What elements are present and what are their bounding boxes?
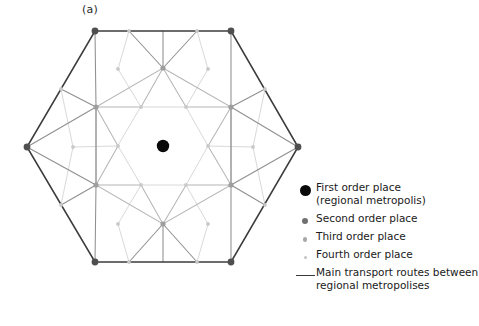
legend-item-third-order: Third order place	[294, 230, 479, 243]
legend-marker-cell	[294, 230, 316, 242]
legend-item-main-routes: Main transport routes between regional m…	[294, 266, 479, 292]
legend-item-second-order: Second order place	[294, 212, 479, 225]
legend: First order place (regional metropolis) …	[294, 181, 479, 295]
third-order-dot-icon	[303, 237, 308, 242]
legend-label-first-order: First order place (regional metropolis)	[316, 181, 426, 207]
first-order-dot-icon	[300, 185, 311, 196]
legend-label-second-order: Second order place	[316, 212, 418, 225]
legend-marker-cell	[294, 181, 316, 196]
figure-root: (a)	[0, 0, 479, 326]
second-order-dot-icon	[302, 218, 308, 224]
legend-label-fourth-order: Fourth order place	[316, 248, 413, 261]
legend-item-fourth-order: Fourth order place	[294, 248, 479, 261]
legend-marker-cell	[294, 212, 316, 224]
fourth-order-dot-icon	[304, 256, 307, 259]
first-order-place	[157, 140, 169, 152]
legend-label-main-routes: Main transport routes between regional m…	[316, 266, 478, 292]
legend-label-third-order: Third order place	[316, 230, 406, 243]
legend-marker-cell	[294, 248, 316, 259]
legend-item-first-order: First order place (regional metropolis)	[294, 181, 479, 207]
route-line-icon	[296, 275, 315, 276]
legend-marker-cell	[294, 266, 316, 276]
